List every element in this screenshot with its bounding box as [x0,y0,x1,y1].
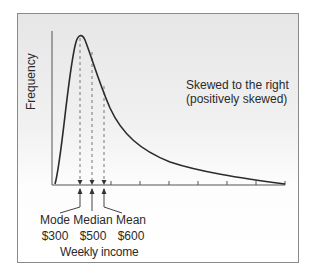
median-value: $500 [73,228,113,244]
mode-label: Mode $300 [35,212,75,244]
mode-value: $300 [35,228,75,244]
mean-name: Mean [111,212,151,228]
x-axis-ticks [111,181,285,185]
median-name: Median [73,212,113,228]
mean-label: Mean $600 [111,212,151,244]
annotation-line-1: Skewed to the right [186,78,289,92]
mean-value: $600 [111,228,151,244]
x-axis-label: Weekly income [60,245,139,259]
median-label: Median $500 [73,212,113,244]
distribution-curve [55,36,285,184]
axis-arrowheads [78,180,107,185]
annotation-line-2: (positively skewed) [186,92,289,106]
skew-annotation: Skewed to the right (positively skewed) [186,78,289,106]
leader-arrowheads [78,188,107,194]
mode-name: Mode [35,212,75,228]
y-axis-label: Frequency [24,53,38,110]
